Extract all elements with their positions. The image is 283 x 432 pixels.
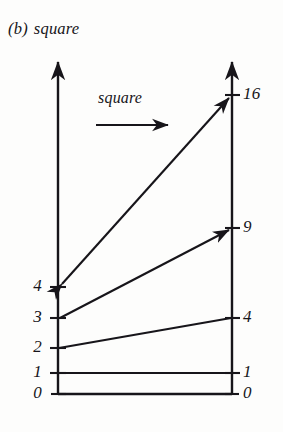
figure-square-mapping-diagram: (b)square square 4 3 2 1 0 16 9 4 1 0	[0, 0, 283, 432]
right-tick-label-4: 4	[243, 308, 252, 325]
mapping-diagram-canvas	[0, 0, 283, 432]
right-tick-label-0: 0	[243, 384, 252, 401]
left-tick-label-4: 4	[16, 277, 42, 294]
mapping-arrow-2-to-4	[59, 318, 231, 348]
figure-caption: (b)square	[8, 21, 79, 38]
operation-label: square	[98, 90, 142, 106]
left-tick-label-2: 2	[16, 338, 42, 355]
left-tick-label-1: 1	[16, 363, 42, 380]
right-tick-label-9: 9	[243, 218, 252, 235]
right-tick-label-1: 1	[243, 363, 252, 380]
left-tick-label-0: 0	[16, 384, 42, 401]
left-tick-label-3: 3	[16, 308, 42, 325]
mapping-arrow-3-to-9	[60, 230, 229, 318]
figure-caption-text: square	[34, 19, 80, 38]
right-tick-label-16: 16	[243, 85, 260, 102]
figure-caption-tag: (b)	[8, 19, 28, 38]
